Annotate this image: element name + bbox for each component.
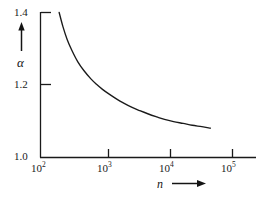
x-tick-exponent-1e2: 2 [42, 160, 46, 169]
chart-figure: 1.4 1.2 1.0 102 103 104 105 α n [0, 0, 265, 200]
y-tick-label-1-2: 1.2 [14, 79, 28, 90]
x-tick-mantissa-1e4: 10 [159, 162, 170, 174]
x-tick-label-1e2: 102 [31, 163, 46, 174]
x-tick-mantissa-1e5: 10 [221, 162, 232, 174]
x-tick-mantissa-1e2: 10 [31, 162, 42, 174]
x-axis-label: n [157, 178, 163, 190]
y-tick-label-1-0: 1.0 [14, 151, 28, 162]
x-tick-label-1e3: 103 [97, 163, 112, 174]
x-tick-mantissa-1e3: 10 [97, 162, 108, 174]
x-tick-label-1e4: 104 [159, 163, 174, 174]
y-tick-label-1-4: 1.4 [14, 7, 28, 18]
x-tick-exponent-1e3: 3 [108, 160, 112, 169]
x-tick-label-1e5: 105 [221, 163, 236, 174]
x-tick-exponent-1e4: 4 [170, 160, 174, 169]
y-axis-label: α [17, 56, 24, 69]
x-axis-arrow-icon [172, 180, 206, 187]
y-axis-arrow-icon [18, 22, 24, 51]
alpha-curve [59, 13, 210, 129]
x-tick-exponent-1e5: 5 [232, 160, 236, 169]
